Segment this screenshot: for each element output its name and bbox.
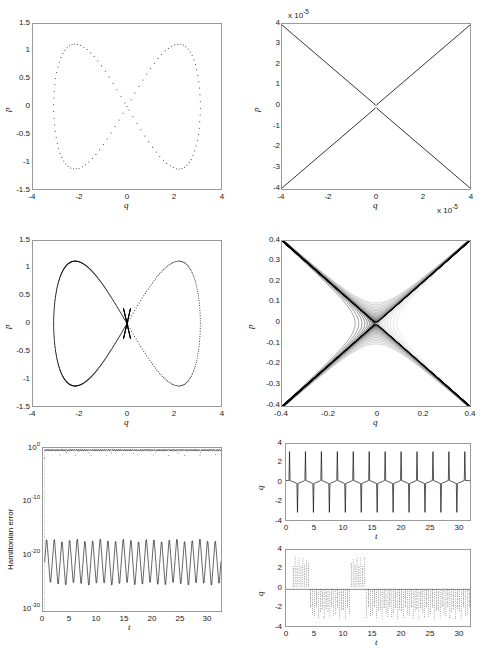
yaxis-title: p xyxy=(2,325,12,330)
ytick-label: 0 xyxy=(252,317,280,326)
xtick-label: 10 xyxy=(334,523,352,532)
yaxis-title: Hamiltonian error xyxy=(6,509,15,570)
ytick-label: 1 xyxy=(258,79,280,88)
yaxis-title: q xyxy=(255,486,265,491)
xtick-label: 2 xyxy=(413,192,433,201)
xtick-label: 0.4 xyxy=(457,409,483,418)
xtick-label: -2 xyxy=(318,192,338,201)
ytick-label: 0.4 xyxy=(252,235,280,244)
xaxis-title: t xyxy=(375,531,378,541)
xtick-label: 0 xyxy=(33,614,51,623)
xaxis-multiplier: x 10-5 xyxy=(437,203,458,215)
hamiltonian-error-traces xyxy=(43,448,221,611)
xtick-label: 0 xyxy=(277,629,295,638)
ytick-label: 2 xyxy=(258,59,280,68)
ytick-label: -0.5 xyxy=(8,346,30,355)
ytick-label: -1 xyxy=(256,121,280,130)
ytick-label: -2 xyxy=(260,602,282,611)
ytick-label: 1.5 xyxy=(8,235,30,244)
xtick-label: 25 xyxy=(421,629,439,638)
xtick-label: -4 xyxy=(22,409,42,418)
xtick-label: 5 xyxy=(60,614,78,623)
ytick-label: 0.3 xyxy=(252,255,280,264)
xtick-label: 5 xyxy=(305,629,323,638)
xtick-label: 30 xyxy=(450,629,468,638)
ytick-label: 0.5 xyxy=(8,73,30,82)
ytick-label: -1 xyxy=(8,157,30,166)
spike-train-dotted xyxy=(286,550,470,626)
plot-area-mid-left xyxy=(32,240,222,407)
ytick-label: 1 xyxy=(8,262,30,271)
ytick-label: -0.4 xyxy=(250,400,280,409)
plot-area-mid-right xyxy=(281,240,471,407)
xtick-label: -2 xyxy=(69,409,89,418)
upper-branch-path xyxy=(282,25,470,106)
xtick-label: -4 xyxy=(271,192,291,201)
xaxis-title: q xyxy=(373,417,378,427)
figure-canvas: 1.5 1 0.5 0 -0.5 -1 -1.5 -4 -2 0 2 4 q p… xyxy=(0,0,493,652)
ytick-label: -3 xyxy=(256,162,280,171)
yaxis-multiplier: x 10-5 xyxy=(288,8,309,20)
ytick-label: 2 xyxy=(262,563,282,572)
xtick-label: 15 xyxy=(363,629,381,638)
xtick-label: 20 xyxy=(392,629,410,638)
xtick-label: 30 xyxy=(198,614,216,623)
ytick-label: 2 xyxy=(262,457,282,466)
plot-area-spiketrain-dotted xyxy=(285,549,471,627)
ytick-label: 10-30 xyxy=(8,602,40,613)
xtick-label: -0.4 xyxy=(268,409,294,418)
xtick-label: 4 xyxy=(212,192,232,201)
ytick-label: 0.1 xyxy=(252,296,280,305)
ytick-label: 0 xyxy=(262,477,282,486)
ytick-label: 10-10 xyxy=(8,494,40,505)
ytick-label: -1 xyxy=(8,374,30,383)
ytick-label: 4 xyxy=(258,18,280,27)
plot-area-top-left xyxy=(32,23,222,190)
xtick-label: 2 xyxy=(164,409,184,418)
xtick-label: 25 xyxy=(171,614,189,623)
ytick-label: 0.5 xyxy=(8,290,30,299)
xtick-label: 20 xyxy=(143,614,161,623)
xtick-label: -4 xyxy=(22,192,42,201)
xtick-label: 4 xyxy=(212,409,232,418)
ytick-label: -0.1 xyxy=(250,338,280,347)
xtick-label: -2 xyxy=(69,192,89,201)
saddle-zoom-lines xyxy=(282,24,470,189)
ytick-label: 3 xyxy=(258,38,280,47)
xtick-label: 10 xyxy=(87,614,105,623)
xaxis-title: t xyxy=(375,637,378,647)
yaxis-title: p xyxy=(251,108,261,113)
plot-area-spiketrain-solid xyxy=(285,443,471,521)
plot-area-top-right xyxy=(281,23,471,190)
ytick-label: 1 xyxy=(8,45,30,54)
xtick-label: 5 xyxy=(305,523,323,532)
xtick-label: -0.2 xyxy=(315,409,341,418)
xtick-label: 2 xyxy=(164,192,184,201)
plot-area-bottom-left xyxy=(42,447,222,612)
xaxis-title: q xyxy=(124,417,129,427)
ytick-label: -2 xyxy=(256,141,280,150)
ytick-label: 0 xyxy=(258,100,280,109)
xaxis-title: t xyxy=(128,622,131,632)
lower-branch-path xyxy=(282,108,470,189)
xaxis-title: q xyxy=(124,200,129,210)
yaxis-title: p xyxy=(2,108,12,113)
ytick-label: 0.2 xyxy=(252,276,280,285)
xtick-label: 4 xyxy=(461,192,481,201)
xtick-label: 0 xyxy=(277,523,295,532)
ytick-label: -4 xyxy=(256,183,280,192)
xtick-label: 25 xyxy=(421,523,439,532)
yaxis-title: q xyxy=(255,592,265,597)
xtick-label: 20 xyxy=(392,523,410,532)
hyperbolic-bundle xyxy=(282,241,470,406)
xtick-label: 15 xyxy=(363,523,381,532)
xtick-label: 30 xyxy=(450,523,468,532)
ytick-label: 0 xyxy=(262,583,282,592)
ytick-label: -2 xyxy=(260,496,282,505)
ytick-label: 4 xyxy=(262,438,282,447)
xtick-label: 10 xyxy=(334,629,352,638)
ytick-label: -0.5 xyxy=(8,129,30,138)
ytick-label: 1.5 xyxy=(8,18,30,27)
yaxis-title: p xyxy=(245,325,255,330)
xaxis-title: q xyxy=(373,200,378,210)
